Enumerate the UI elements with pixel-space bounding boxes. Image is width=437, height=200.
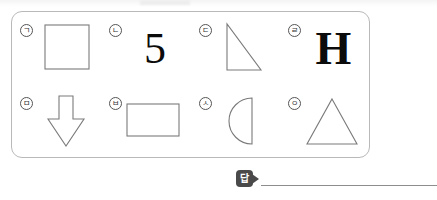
choice-item-4[interactable]: ㄹ H [280,12,369,85]
square-shape [41,23,91,75]
choice-art-4: H [300,16,367,83]
top-bleed-strip [0,0,437,7]
choice-art-7 [211,89,278,156]
digit-five: 5 [144,27,166,71]
answer-input-line[interactable] [261,185,437,186]
letter-h: H [315,26,351,72]
half-circle-shape [224,95,264,149]
choice-art-6 [121,89,188,156]
choice-item-5[interactable]: ㅁ [12,85,101,158]
choice-item-6[interactable]: ㅂ [101,85,190,158]
choice-art-2: 5 [121,16,188,83]
choices-panel: ㄱ ㄴ 5 ㄷ ㄹ H [11,11,370,158]
choice-item-1[interactable]: ㄱ [12,12,101,85]
answer-row: 답 [236,168,437,192]
choice-item-7[interactable]: ㅅ [191,85,280,158]
right-triangle-shape [221,22,267,76]
choice-art-3 [211,16,278,83]
choice-item-2[interactable]: ㄴ 5 [101,12,190,85]
answer-badge: 답 [236,170,253,187]
triangle-shape [304,96,362,148]
top-bleed-smudge [140,0,190,5]
choice-art-8 [300,89,367,156]
rectangle-shape [125,99,185,145]
choice-art-1 [32,16,99,83]
choices-grid: ㄱ ㄴ 5 ㄷ ㄹ H [12,12,369,157]
choice-item-3[interactable]: ㄷ [191,12,280,85]
down-arrow-shape [45,94,87,150]
choice-art-5 [32,89,99,156]
choice-item-8[interactable]: ㅇ [280,85,369,158]
